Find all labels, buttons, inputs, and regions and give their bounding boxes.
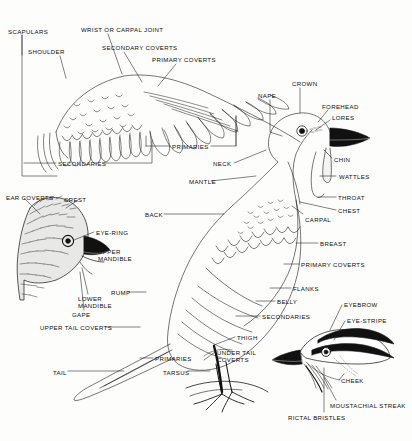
label-primary-coverts-wing: PRIMARY COVERTS (152, 56, 216, 63)
label-primaries-body: PRIMARIES (155, 355, 192, 362)
label-breast: BREAST (320, 240, 346, 247)
crested-head-illustration (17, 196, 110, 300)
label-nape: NAPE (258, 92, 276, 99)
striped-head-illustration (272, 328, 394, 392)
label-chest: CHEST (338, 207, 360, 214)
label-cheek: CHEEK (341, 377, 364, 384)
label-thigh: THIGH (237, 334, 258, 341)
label-lores: LORES (332, 114, 354, 121)
label-crown: CROWN (292, 80, 317, 87)
label-upper-tail-coverts: UPPER TAIL COVERTS (40, 324, 112, 331)
label-secondaries-body: SECONDARIES (262, 313, 310, 320)
label-neck: NECK (213, 160, 231, 167)
label-rump: RUMP (111, 289, 130, 296)
label-wattles: WATTLES (339, 173, 370, 180)
wing-illustration (37, 75, 300, 172)
label-under-tail-coverts: UNDER TAIL COVERTS (217, 349, 256, 363)
label-flanks: FLANKS (293, 285, 319, 292)
label-secondary-coverts: SECONDARY COVERTS (102, 44, 177, 51)
label-scapulars: SCAPULARS (8, 28, 48, 35)
label-primary-coverts-body: PRIMARY COVERTS (301, 261, 365, 268)
bird-topography-diagram: SCAPULARS WRIST OR CARPAL JOINT SHOULDER… (0, 0, 412, 441)
label-lower-mandible: LOWER MANDIBLE (78, 295, 112, 309)
label-secondaries-wing: SECONDARIES (58, 160, 106, 167)
label-mantle: MANTLE (189, 178, 216, 185)
label-upper-mandible: UPPER MANDIBLE (98, 248, 132, 262)
label-back: BACK (145, 211, 163, 218)
label-chin: CHIN (334, 156, 350, 163)
label-rictal-bristles: RICTAL BRISTLES (288, 414, 345, 421)
label-gape: GAPE (72, 311, 90, 318)
label-forehead: FOREHEAD (322, 103, 359, 110)
label-throat: THROAT (338, 194, 365, 201)
label-eye-stripe: EYE-STRIPE (347, 317, 387, 324)
label-carpal: CARPAL (305, 216, 331, 223)
label-tail: TAIL (53, 369, 67, 376)
label-crest: CREST (64, 196, 86, 203)
label-ear-coverts: EAR COVERTS (6, 194, 53, 201)
label-tarsus: TARSUS (163, 369, 189, 376)
label-moustachial-streak: MOUSTACHIAL STREAK (330, 402, 406, 409)
label-eyebrow: EYEBROW (344, 301, 378, 308)
label-shoulder: SHOULDER (28, 48, 65, 55)
label-belly: BELLY (277, 298, 297, 305)
label-primaries-wing: PRIMARIES (172, 143, 209, 150)
label-eye-ring: EYE-RING (96, 229, 128, 236)
label-wrist-or-carpal-joint: WRIST OR CARPAL JOINT (81, 26, 163, 33)
